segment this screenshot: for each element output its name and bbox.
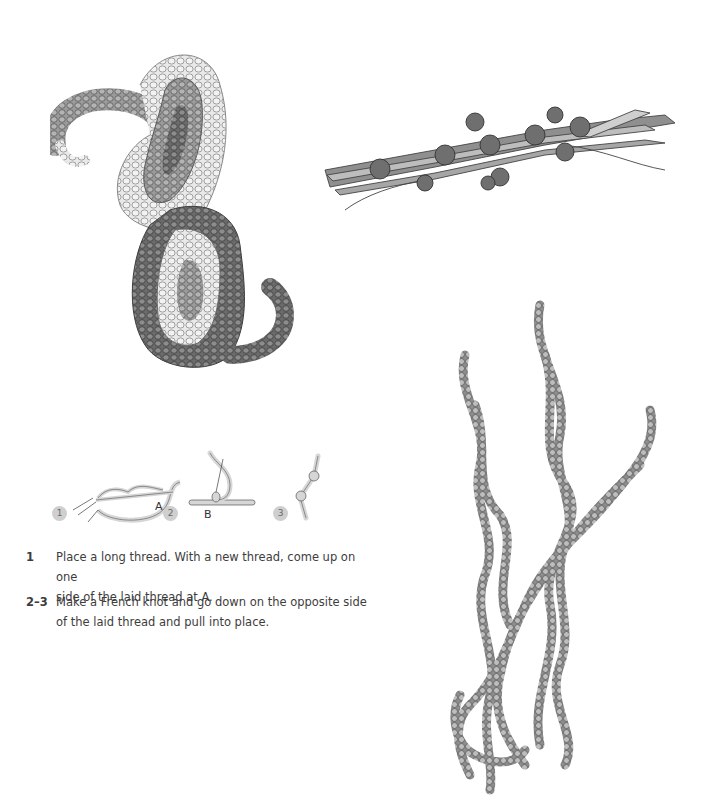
step-badge-1: 1 (52, 506, 67, 521)
step-badge-3: 3 (273, 506, 288, 521)
instruction-step-2-3: 2–3 Make a French knot and go down on th… (26, 592, 386, 632)
diagram-step-3 (290, 452, 330, 522)
instruction-line: Place a long thread. With a new thread, … (56, 547, 376, 587)
illustration-couched-bundle (315, 95, 685, 225)
stitch-diagram: 1 A 2 B 3 (40, 440, 370, 525)
instruction-line: Make a French knot and go down on the op… (56, 592, 376, 612)
step-number: 2–3 (26, 592, 56, 612)
illustration-paisley (50, 25, 350, 375)
diagram-step-2 (185, 445, 260, 520)
instruction-step-1: 1 Place a long thread. With a new thread… (26, 547, 386, 587)
step-number: 1 (26, 547, 56, 567)
instruction-line: of the laid thread and pull into place. (56, 612, 376, 632)
diagram-label-a: A (155, 500, 163, 513)
illustration-knotted-strands (430, 295, 690, 805)
step-badge-2: 2 (163, 506, 178, 521)
diagram-label-b: B (204, 508, 212, 521)
